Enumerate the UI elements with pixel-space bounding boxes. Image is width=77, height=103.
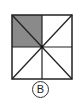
center-point: [41, 46, 44, 49]
option-label-badge: B: [32, 81, 49, 98]
option-label-text: B: [37, 84, 44, 95]
